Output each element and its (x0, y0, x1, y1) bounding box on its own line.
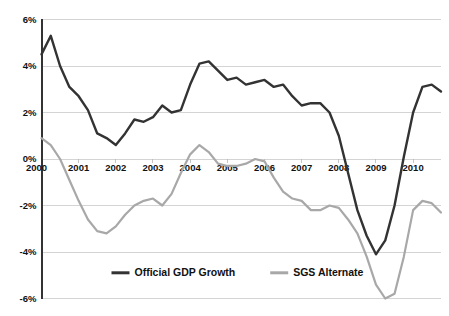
x-axis-label-2010: 2010 (403, 162, 424, 173)
x-axis-label-2000: 2000 (26, 162, 47, 173)
y-axis-label-2pct: 2% (23, 107, 37, 118)
y-axis-label-6pct: 6% (23, 14, 37, 25)
x-axis-label-2009: 2009 (365, 162, 386, 173)
y-axis-label-neg4pct: -4% (20, 246, 37, 257)
chart-canvas: 6%4%2%0%-2%-4%-6% 2000200120022003200420… (0, 0, 449, 316)
legend-label-official-gdp-growth: Official GDP Growth (134, 266, 235, 278)
x-axis-label-2003: 2003 (142, 162, 163, 173)
legend-label-sgs-alternate: SGS Alternate (293, 266, 363, 278)
y-axis-label-neg2pct: -2% (20, 200, 37, 211)
x-axis-label-2007: 2007 (291, 162, 312, 173)
y-axis-label-4pct: 4% (23, 60, 37, 71)
gdp-growth-chart: 6%4%2%0%-2%-4%-6% 2000200120022003200420… (0, 0, 449, 316)
x-axis-label-2006: 2006 (254, 162, 275, 173)
y-axis-label-neg6pct: -6% (20, 293, 37, 304)
x-axis-label-2002: 2002 (105, 162, 126, 173)
x-axis-label-2001: 2001 (68, 162, 90, 173)
